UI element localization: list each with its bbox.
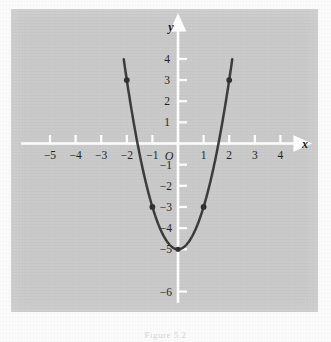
y-tick-label-3: 3 [164,74,170,86]
x-tick-label-2: 2 [226,149,232,161]
x-tick-label-4: 4 [278,149,284,161]
y-tick-label--2: −2 [160,180,172,192]
y-tick-label--6: −6 [160,286,172,298]
x-tick-label--1: −1 [146,149,158,161]
x-tick-label-3: 3 [252,149,258,161]
y-axis-label: y [166,20,174,34]
y-tick-label-4: 4 [164,53,170,65]
data-point [201,204,207,210]
y-tick-label-2: 2 [164,95,170,107]
y-tick-label--3: −3 [160,201,172,213]
x-tick-label--3: −3 [95,149,107,161]
figure-root: −5 −4 −3 −2 −1 1 2 3 4 4 3 2 1 −1 −2 −3 … [0,0,331,342]
x-tick-label-1: 1 [201,149,207,161]
x-tick-label--2: −2 [121,149,133,161]
origin-label: O [165,149,174,163]
x-axis-label: x [301,137,308,151]
plot-panel: −5 −4 −3 −2 −1 1 2 3 4 4 3 2 1 −1 −2 −3 … [11,9,318,312]
figure-caption: Figure 5.2 [0,330,331,342]
x-tick-label--5: −5 [44,149,56,161]
y-axis-ticks [178,59,187,292]
y-tick-labels: 4 3 2 1 −1 −2 −3 −4 −5 −6 [160,53,172,298]
data-point [175,247,180,252]
y-tick-label-1: 1 [164,116,170,128]
data-point [150,204,156,210]
data-point [226,77,232,83]
axis-lines [21,29,296,303]
x-tick-label--4: −4 [69,149,81,161]
data-point [124,77,130,83]
graph-canvas: −5 −4 −3 −2 −1 1 2 3 4 4 3 2 1 −1 −2 −3 … [11,9,318,312]
